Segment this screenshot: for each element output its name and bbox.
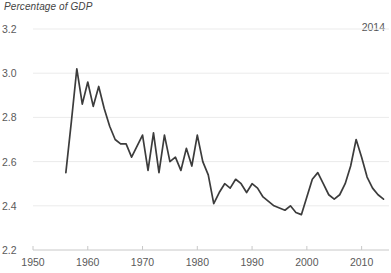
y-axis-tick-labels: 3.23.02.82.62.42.2 xyxy=(2,23,17,256)
x-axis-tick-labels: 1950196019701980199020002010 xyxy=(21,256,373,268)
y-axis-tick-label: 3.0 xyxy=(2,67,17,79)
y-axis-tick-label: 2.2 xyxy=(2,244,17,256)
x-axis-tick-label: 2010 xyxy=(350,256,374,268)
x-axis-tick-label: 1980 xyxy=(186,256,210,268)
x-axis-tick-label: 1990 xyxy=(240,256,264,268)
chart-container: Percentage of GDP 2014 3.23.02.82.62.42.… xyxy=(0,0,391,273)
gridlines xyxy=(33,29,389,206)
x-axis-tick-label: 2000 xyxy=(295,256,319,268)
y-axis-tick-label: 2.8 xyxy=(2,111,17,123)
x-axis xyxy=(33,246,389,250)
y-axis-tick-label: 2.4 xyxy=(2,200,17,212)
x-axis-tick-label: 1950 xyxy=(21,256,45,268)
x-axis-tick-label: 1970 xyxy=(131,256,155,268)
data-series-line xyxy=(66,69,384,215)
y-axis-tick-label: 2.6 xyxy=(2,156,17,168)
y-axis-tick-label: 3.2 xyxy=(2,23,17,35)
line-chart-plot: 3.23.02.82.62.42.2 195019601970198019902… xyxy=(0,0,391,273)
x-axis-tick-label: 1960 xyxy=(76,256,100,268)
